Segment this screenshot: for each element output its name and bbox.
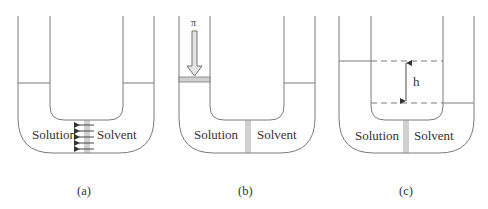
solvent-label: Solvent xyxy=(414,128,454,143)
semipermeable-membrane xyxy=(246,120,250,153)
semipermeable-membrane xyxy=(404,120,408,153)
osmosis-diagram: Solution Solvent (a) π Solution Solvent … xyxy=(0,0,488,209)
piston xyxy=(179,77,210,82)
panel-c: h Solution Solvent (c) xyxy=(339,16,474,198)
solution-label: Solution xyxy=(355,128,400,143)
panel-a: Solution Solvent (a) xyxy=(18,16,154,198)
panel-caption: (b) xyxy=(238,184,253,198)
u-tube-inner xyxy=(210,16,284,120)
u-tube-inner xyxy=(371,16,443,120)
panel-caption: (c) xyxy=(399,184,413,198)
panel-b: π Solution Solvent (b) xyxy=(179,16,315,198)
osmotic-pressure-symbol: π xyxy=(191,17,196,28)
u-tube-inner xyxy=(50,16,123,120)
solvent-label: Solvent xyxy=(97,127,137,142)
height-label: h xyxy=(413,74,420,89)
solution-label: Solution xyxy=(194,127,239,142)
solvent-label: Solvent xyxy=(257,127,297,142)
panel-caption: (a) xyxy=(77,184,91,198)
solvent-flow-arrows xyxy=(79,125,94,149)
pressure-arrow-icon xyxy=(187,31,202,76)
solution-label: Solution xyxy=(32,127,77,142)
